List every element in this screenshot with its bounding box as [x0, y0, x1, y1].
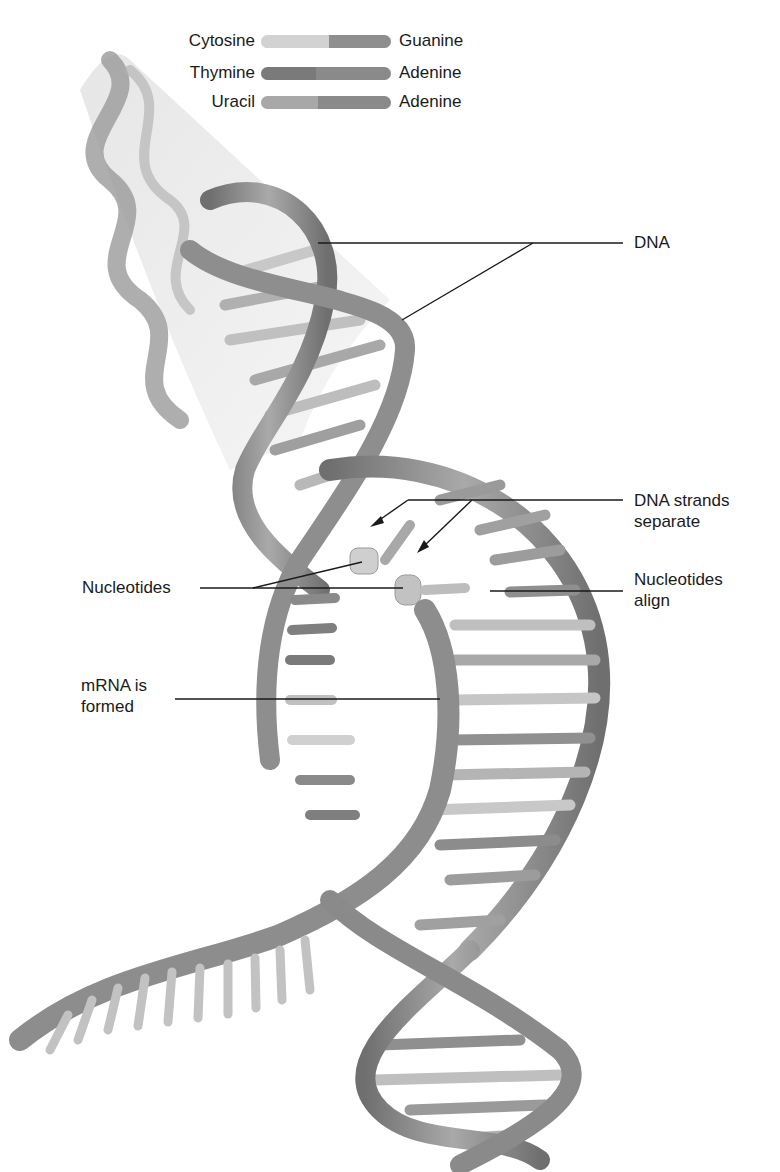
legend-right-label: Adenine — [391, 63, 461, 83]
label-dna-strands-separate-line1: DNA strands — [634, 490, 729, 511]
label-mrna-line2: formed — [81, 696, 134, 717]
legend-row-uracil-adenine: Uracil Adenine — [150, 90, 461, 114]
dna-lower-helix — [330, 900, 572, 1165]
legend-row-cytosine-guanine: Cytosine Guanine — [150, 29, 463, 53]
legend-left-label: Cytosine — [150, 31, 261, 51]
label-nucleotides: Nucleotides — [82, 577, 171, 598]
legend-bar-icon — [261, 35, 391, 48]
legend-left-label: Thymine — [150, 63, 261, 83]
legend-right-label: Guanine — [391, 31, 463, 51]
magnified-cone — [80, 54, 390, 470]
label-dna: DNA — [634, 232, 670, 253]
label-dna-strands-separate-line2: separate — [634, 511, 700, 532]
legend-row-thymine-adenine: Thymine Adenine — [150, 61, 461, 85]
legend-bar-icon — [261, 96, 391, 109]
legend-right-label: Adenine — [391, 92, 461, 112]
free-nucleotides — [350, 525, 465, 605]
legend-left-label: Uracil — [150, 92, 261, 112]
legend-bar-icon — [261, 67, 391, 80]
label-mrna-line1: mRNA is — [81, 675, 147, 696]
label-nucleotides-align-line1: Nucleotides — [634, 569, 723, 590]
label-nucleotides-align-line2: align — [634, 590, 670, 611]
